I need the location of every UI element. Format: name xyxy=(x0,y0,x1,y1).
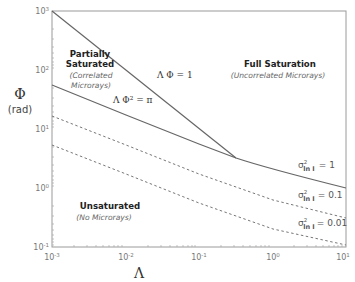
region-partially-saturated-title-1: Partially xyxy=(70,49,111,59)
region-unsaturated-sub: (No Microrays) xyxy=(76,213,132,222)
svg-text:σ2ln I= 1: σ2ln I= 1 xyxy=(298,159,335,173)
y-tick-1e1: 101 xyxy=(35,124,49,135)
chart-svg: 103 102 101 100 10-1 10-3 10-2 10-1 100 … xyxy=(0,0,355,282)
region-full-saturation-sub: (Uncorrelated Microrays) xyxy=(231,71,326,80)
x-tick-1e1: 101 xyxy=(336,252,350,263)
region-unsaturated-title: Unsaturated xyxy=(80,201,140,211)
annotation-sigma-0.1: σ2ln I= 0.1 xyxy=(298,189,342,203)
x-tick-1e-2: 10-2 xyxy=(118,252,134,263)
region-partially-saturated-sub-2: Microrays) xyxy=(71,81,111,90)
svg-text:σ2ln I= 0.1: σ2ln I= 0.1 xyxy=(298,189,342,203)
x-tick-1e-1: 10-1 xyxy=(191,252,207,263)
y-tick-1e3: 103 xyxy=(35,6,49,17)
y-tick-1e-1: 10-1 xyxy=(33,242,49,253)
region-full-saturation-title: Full Saturation xyxy=(244,59,316,69)
region-partially-saturated-sub-1: (Correlated xyxy=(69,71,112,80)
x-tick-1e-3: 10-3 xyxy=(44,252,60,263)
y-axis-label: Φ xyxy=(14,86,25,102)
x-axis-label: Λ xyxy=(133,265,145,281)
y-tick-1e0: 100 xyxy=(35,183,49,194)
annotation-sigma-0.01: σ2ln I= 0.01 xyxy=(298,217,347,231)
annotation-sigma-1: σ2ln I= 1 xyxy=(298,159,335,173)
region-partially-saturated-title-2: Saturated xyxy=(66,59,114,69)
annotation-lambda-phi2-eq-pi: Λ Φ² = π xyxy=(112,95,153,105)
svg-text:σ2ln I= 0.01: σ2ln I= 0.01 xyxy=(298,217,347,231)
y-tick-1e2: 102 xyxy=(35,65,49,76)
y-axis-unit: (rad) xyxy=(8,104,32,115)
x-tick-1e0: 100 xyxy=(266,252,280,263)
series-sigma-1 xyxy=(52,85,346,188)
annotation-lambda-phi-eq-1: Λ Φ = 1 xyxy=(156,70,193,80)
